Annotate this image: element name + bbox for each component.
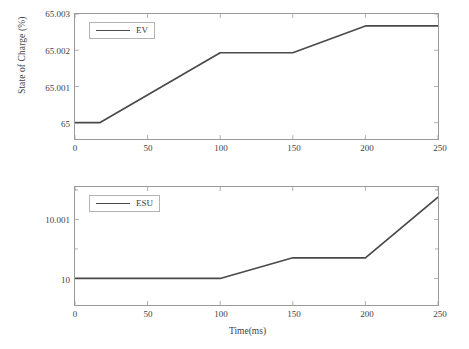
x-axis-label: Time(ms): [0, 326, 469, 336]
figure-canvas: State of Charge (%) 6565.00165.00265.003…: [0, 0, 469, 349]
x-tick-label: 250: [433, 310, 447, 319]
chart-panel-esu: 1010.001 050100150200250 ESU: [74, 186, 439, 306]
shared-y-axis-label: State of Charge (%): [17, 0, 27, 94]
x-tick-label: 0: [73, 310, 78, 319]
x-tick-label: 150: [287, 144, 301, 153]
x-tick-label: 100: [214, 310, 228, 319]
esu-legend-label: ESU: [136, 199, 153, 208]
x-tick-label: 50: [144, 144, 153, 153]
esu-legend: ESU: [89, 195, 160, 212]
y-tick-label: 65: [61, 120, 70, 129]
y-tick-label: 10: [61, 276, 70, 285]
ev-legend-line-swatch: [96, 30, 130, 31]
esu-legend-line-swatch: [96, 203, 130, 204]
y-tick-label: 65.002: [45, 46, 70, 55]
y-tick-label: 65.001: [45, 83, 70, 92]
y-tick-label: 10.001: [45, 216, 70, 225]
ev-legend-label: EV: [136, 26, 148, 35]
x-axis-label-text: Time(ms): [203, 326, 266, 336]
series-line-ev: [75, 26, 438, 123]
x-tick-label: 200: [360, 310, 374, 319]
chart-panel-ev: 6565.00165.00265.003 050100150200250 EV: [74, 13, 439, 140]
x-tick-label: 0: [73, 144, 78, 153]
y-tick-label: 65.003: [45, 10, 70, 19]
x-tick-label: 250: [433, 144, 447, 153]
x-tick-label: 200: [360, 144, 374, 153]
ev-legend: EV: [89, 22, 155, 39]
x-tick-label: 150: [287, 310, 301, 319]
x-tick-label: 50: [144, 310, 153, 319]
x-tick-label: 100: [214, 144, 228, 153]
